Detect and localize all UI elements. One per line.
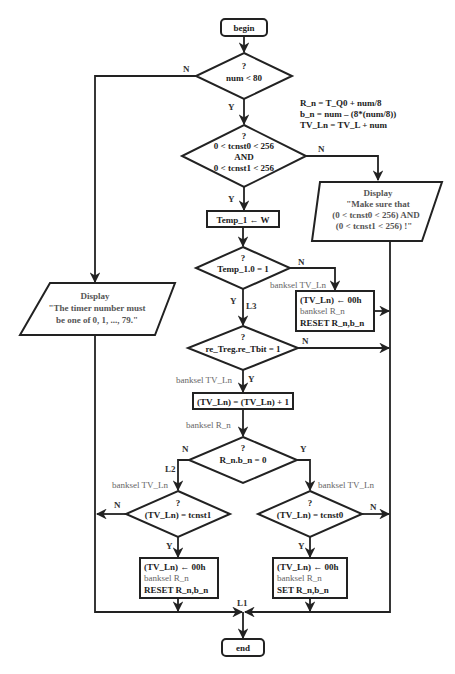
svg-text:re_Treg.re_Tbit = 1: re_Treg.re_Tbit = 1 [205, 344, 281, 354]
svg-text:RESET R_n,b_n: RESET R_n,b_n [144, 585, 208, 595]
svg-text:(0 < tcnst1 < 256) !": (0 < tcnst1 < 256) !" [336, 221, 413, 231]
decision-num-less-80: ? num < 80 [196, 53, 292, 99]
svg-text:Temp_1 ← W: Temp_1 ← W [216, 215, 269, 225]
no-label: N [302, 336, 309, 346]
svg-text:(TV_Ln) ← 00h: (TV_Ln) ← 00h [144, 562, 206, 572]
svg-text:banksel R_n: banksel R_n [300, 306, 345, 316]
process-temp-assign: Temp_1 ← W [207, 211, 279, 227]
process-reset-left: (TV_Ln) ← 00h banksel R_n RESET R_n,b_n [140, 558, 218, 598]
yes-label: Y [248, 374, 255, 384]
svg-text:Temp_1.0 = 1: Temp_1.0 = 1 [217, 264, 269, 274]
svg-text:"The timer number must: "The timer number must [49, 303, 146, 313]
svg-text:Display: Display [363, 188, 393, 198]
svg-text:R_n = T_Q0 + num/8: R_n = T_Q0 + num/8 [300, 98, 382, 108]
no-label: N [183, 64, 190, 74]
flowchart: begin ? num < 80 N Y R_n = T_Q0 + num/8 … [0, 0, 455, 674]
svg-text:?: ? [241, 332, 246, 342]
label-L3: L3 [246, 301, 257, 311]
process-reset-top: (TV_Ln) ← 00h banksel R_n RESET R_n,b_n [296, 291, 374, 331]
svg-text:(0 < tcnst0 < 256) AND: (0 < tcnst0 < 256) AND [332, 210, 420, 220]
yes-label: Y [230, 296, 237, 306]
label-L1: L1 [237, 598, 248, 608]
banksel-annotation: banksel TV_Ln [270, 280, 327, 290]
decision-rnbn-zero: ? R_n.b_n = 0 [189, 437, 297, 483]
svg-text:b_n = num – (8*(num/8)): b_n = num – (8*(num/8)) [300, 109, 396, 119]
svg-text:(TV_Ln) = tcnst0: (TV_Ln) = tcnst0 [277, 510, 344, 520]
svg-text:?: ? [242, 131, 247, 141]
svg-text:"Make sure that: "Make sure that [346, 199, 409, 209]
yes-label: Y [300, 444, 307, 454]
banksel-annotation: banksel R_n [186, 420, 231, 430]
yes-label: Y [166, 541, 173, 551]
svg-text:AND: AND [234, 152, 254, 162]
svg-text:SET R_n,b_n: SET R_n,b_n [277, 585, 329, 595]
svg-text:(TV_Ln) ← 00h: (TV_Ln) ← 00h [300, 295, 362, 305]
svg-text:0 < tcnst1 < 256: 0 < tcnst1 < 256 [214, 163, 275, 173]
process-set-right: (TV_Ln) ← 00h banksel R_n SET R_n,b_n [273, 558, 347, 598]
svg-text:?: ? [241, 253, 246, 263]
decision-tcnst-range: ? 0 < tcnst0 < 256 AND 0 < tcnst1 < 256 [182, 125, 306, 187]
svg-text:?: ? [241, 443, 246, 453]
begin-terminal: begin [221, 19, 267, 36]
no-label: N [298, 257, 305, 267]
banksel-annotation: banksel TV_Ln [318, 480, 375, 490]
end-terminal: end [222, 639, 264, 656]
begin-label: begin [233, 23, 254, 33]
svg-text:?: ? [308, 498, 313, 508]
yes-label: Y [298, 541, 305, 551]
svg-text:be one of 0, 1, ..., 79.": be one of 0, 1, ..., 79." [56, 315, 138, 325]
svg-text:Display: Display [80, 291, 110, 301]
no-label: N [370, 502, 377, 512]
svg-text:?: ? [242, 61, 247, 71]
svg-text:(TV_Ln) = (TV_Ln) + 1: (TV_Ln) = (TV_Ln) + 1 [197, 397, 289, 407]
svg-text:(TV_Ln) ← 00h: (TV_Ln) ← 00h [277, 562, 339, 572]
no-label: N [182, 444, 189, 454]
banksel-annotation: banksel TV_Ln [176, 375, 233, 385]
formula-block: R_n = T_Q0 + num/8 b_n = num – (8*(num/8… [300, 98, 396, 130]
num-check-condition: num < 80 [226, 73, 263, 83]
display-timer-error: Display "The timer number must be one of… [20, 283, 175, 335]
svg-text:RESET R_n,b_n: RESET R_n,b_n [300, 318, 364, 328]
svg-text:0 < tcnst0 < 256: 0 < tcnst0 < 256 [214, 141, 275, 151]
no-label: N [114, 500, 121, 510]
svg-text:banksel R_n: banksel R_n [277, 573, 322, 583]
decision-tcnst1-match: ? (TV_Ln) = tcnst1 [126, 491, 230, 537]
svg-text:TV_Ln = TV_L + num: TV_Ln = TV_L + num [300, 120, 388, 130]
svg-text:banksel R_n: banksel R_n [144, 573, 189, 583]
no-label: N [318, 144, 325, 154]
process-increment: (TV_Ln) = (TV_Ln) + 1 [193, 393, 293, 409]
banksel-annotation: banksel TV_Ln [112, 480, 169, 490]
end-label: end [236, 643, 250, 653]
yes-label: Y [228, 102, 235, 112]
decision-treg-bit: ? re_Treg.re_Tbit = 1 [188, 326, 298, 370]
yes-label: Y [228, 194, 235, 204]
label-L2: L2 [165, 464, 176, 474]
svg-text:R_n.b_n = 0: R_n.b_n = 0 [220, 455, 267, 465]
display-tcnst-error: Display "Make sure that (0 < tcnst0 < 25… [312, 182, 442, 241]
svg-text:(TV_Ln) = tcnst1: (TV_Ln) = tcnst1 [145, 510, 212, 520]
decision-tcnst0-match: ? (TV_Ln) = tcnst0 [258, 491, 362, 537]
svg-text:?: ? [176, 498, 181, 508]
